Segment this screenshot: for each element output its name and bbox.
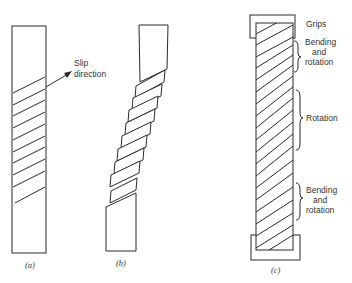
caption-c: (c) — [271, 265, 281, 275]
grips-label: Grips — [306, 19, 326, 29]
slip-direction-label-1: Slip — [74, 58, 88, 68]
slip-direction-label-2: direction — [74, 69, 106, 79]
brace-bending-top — [294, 41, 301, 72]
brace-rotation — [296, 90, 303, 150]
panel-a: Slip direction (a) — [12, 26, 106, 270]
brace-bending-bottom — [296, 183, 303, 220]
bending-top-label-2: and — [312, 47, 326, 57]
panel-c: Grips Bending and rotation Rotation Bend… — [250, 14, 338, 275]
slip-diagram: Slip direction (a) (b) — [0, 0, 352, 283]
slip-direction-arrow — [46, 71, 72, 87]
bending-bottom-label-3: rotation — [306, 205, 335, 215]
rotation-label: Rotation — [306, 113, 338, 123]
caption-a: (a) — [25, 260, 35, 270]
caption-b: (b) — [116, 258, 126, 268]
bending-bottom-label-2: and — [313, 195, 327, 205]
bending-bottom-label-1: Bending — [306, 185, 337, 195]
bending-top-label-1: Bending — [305, 37, 336, 47]
bending-top-label-3: rotation — [305, 57, 334, 67]
panel-b: (b) — [106, 25, 168, 268]
slip-steps-b — [110, 70, 165, 203]
crystal-bar-a — [12, 26, 46, 253]
